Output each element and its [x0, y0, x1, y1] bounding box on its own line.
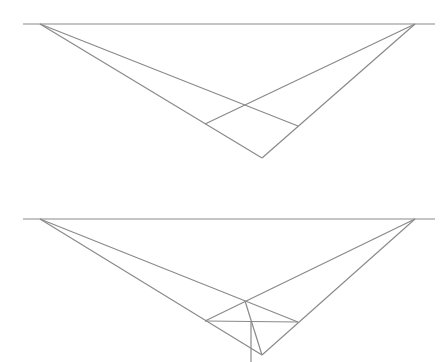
right-vp-to-bottom-line: [262, 219, 415, 355]
top-panel: [23, 24, 435, 158]
right-vp-to-left-point-line: [205, 219, 415, 321]
left-vp-to-right-point-line: [40, 24, 298, 126]
left-vp-to-bottom-line: [40, 24, 262, 158]
left-vp-to-bottom-line: [40, 219, 262, 355]
perspective-diagram: [0, 0, 447, 362]
right-vp-to-bottom-line: [262, 24, 415, 158]
right-vp-to-left-point-line: [205, 24, 415, 124]
center-diagonal-line: [245, 301, 262, 355]
left-vp-to-right-point-line: [40, 219, 298, 322]
bottom-panel: [23, 219, 435, 362]
